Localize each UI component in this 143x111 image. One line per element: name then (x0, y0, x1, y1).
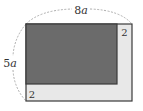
rectangle-diagram: 8a 5a 2 2 (0, 0, 143, 111)
width-label: 8a (74, 4, 88, 17)
height-label: 5a (3, 57, 17, 70)
strip-right-label: 2 (121, 27, 127, 38)
strip-bottom-label: 2 (29, 89, 35, 100)
inner-rectangle (26, 24, 117, 84)
